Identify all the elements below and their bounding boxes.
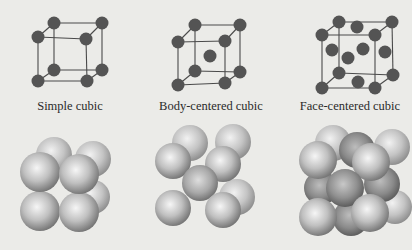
- corner-atom: [48, 17, 61, 30]
- atom-sphere: [205, 192, 241, 228]
- interior-atom: [379, 46, 392, 59]
- corner-atom: [32, 31, 45, 44]
- corner-atom: [48, 64, 61, 77]
- corner-atom: [369, 29, 382, 42]
- cell-edge: [38, 37, 86, 39]
- corner-atom: [96, 64, 109, 77]
- atom-sphere: [155, 190, 191, 226]
- corner-atom: [81, 75, 94, 88]
- corner-atom: [32, 75, 45, 88]
- interior-atom: [357, 43, 370, 56]
- interior-atom: [342, 52, 355, 65]
- corner-atom: [369, 82, 382, 95]
- atom-sphere: [299, 198, 337, 236]
- corner-atom: [316, 29, 329, 42]
- simple-cubic-sphere-model: [20, 137, 111, 232]
- label-simple-cubic: Simple cubic: [37, 99, 103, 114]
- corner-atom: [386, 16, 399, 29]
- cell-edge: [195, 71, 240, 72]
- corner-atom: [234, 66, 247, 79]
- cell-edge: [392, 22, 393, 75]
- unit-cell-lattices: [32, 16, 400, 95]
- interior-atom: [326, 44, 339, 57]
- corner-atom: [80, 33, 93, 46]
- simple-cubic-unit-cell: [32, 17, 109, 88]
- label-body-centered-cubic: Body-centered cubic: [159, 99, 263, 114]
- interior-atom: [352, 76, 365, 89]
- atom-sphere: [59, 154, 99, 194]
- corner-atom: [316, 82, 329, 95]
- corner-atom: [387, 69, 400, 82]
- crystal-structures-diagram: [0, 0, 412, 250]
- body-centered-cubic-unit-cell: [172, 19, 247, 92]
- face-centered-cubic-sphere-model: [299, 125, 412, 236]
- face-centered-cubic-unit-cell: [316, 16, 400, 95]
- corner-atom: [219, 77, 232, 90]
- atom-sphere: [20, 191, 60, 231]
- atom-sphere: [299, 141, 337, 179]
- cell-edge: [339, 73, 393, 75]
- corner-atom: [189, 65, 202, 78]
- cell-edge: [178, 83, 225, 85]
- corner-atom: [189, 19, 202, 32]
- space-filling-models: [20, 124, 412, 236]
- atom-sphere: [20, 152, 60, 192]
- corner-atom: [333, 67, 346, 80]
- label-face-centered-cubic: Face-centered cubic: [300, 99, 400, 114]
- atom-sphere: [351, 194, 389, 232]
- corner-atom: [172, 79, 185, 92]
- corner-atom: [96, 17, 109, 30]
- atom-sphere: [59, 192, 99, 232]
- corner-atom: [219, 35, 232, 48]
- corner-atom: [234, 19, 247, 32]
- body-centered-cubic-sphere-model: [155, 124, 255, 228]
- corner-atom: [172, 36, 185, 49]
- corner-atom: [333, 16, 346, 29]
- interior-atom: [351, 21, 364, 34]
- cell-edge: [178, 41, 225, 42]
- interior-atom: [204, 50, 217, 63]
